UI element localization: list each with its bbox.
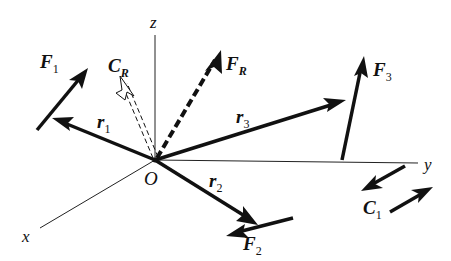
y-axis — [155, 160, 418, 163]
y-axis-label: y — [422, 155, 432, 174]
origin-point — [153, 158, 158, 163]
r2-label: r2 — [209, 170, 222, 195]
r3-label: r3 — [236, 106, 249, 131]
cr-label: CR — [108, 55, 129, 80]
f3-label: F3 — [372, 59, 392, 84]
arrowhead-icon — [236, 206, 258, 225]
force-f2: F2 — [226, 218, 293, 258]
couple-arrow-right — [390, 193, 423, 212]
arrowhead-icon — [361, 175, 383, 191]
f1-label: F1 — [39, 51, 59, 76]
force-system-diagram: z y x O CR FR r1 r3 — [0, 0, 451, 261]
c1-label: C1 — [363, 197, 382, 222]
position-vector-r3: r3 — [155, 98, 346, 160]
force-f3: F3 — [342, 56, 392, 160]
resultant-force-fr: FR — [157, 50, 247, 158]
position-vector-r2: r2 — [155, 160, 258, 225]
arrowhead-icon — [411, 187, 433, 203]
origin-label: O — [144, 168, 158, 189]
position-vector-r1: r1 — [52, 111, 155, 160]
x-axis-label: x — [21, 227, 30, 246]
fr-label: FR — [225, 53, 247, 78]
r1-label: r1 — [97, 111, 110, 136]
z-axis-label: z — [149, 13, 157, 32]
couple-arrow-left — [371, 166, 405, 185]
couple-c1: C1 — [361, 166, 433, 222]
f2-label: F2 — [242, 233, 262, 258]
x-axis — [40, 160, 155, 228]
